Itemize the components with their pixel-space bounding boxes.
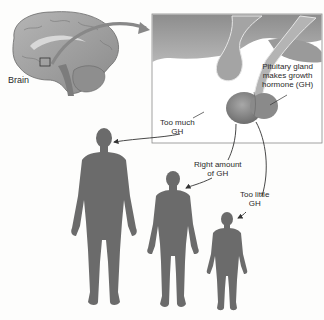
right-amount-arrow [186,178,212,188]
normal-figure [147,171,199,307]
too-little-label: Too little GH [240,190,269,208]
short-figure [207,212,248,310]
too-little-arrow [238,212,246,218]
too-much-label: Too much GH [160,118,195,136]
pituitary-label: Pituitary gland makes growth hormone (GH… [262,62,313,89]
tall-figure [71,128,137,305]
brain-label: Brain [8,76,29,85]
diagram-canvas [0,0,324,320]
right-amount-label: Right amount of GH [194,160,242,178]
